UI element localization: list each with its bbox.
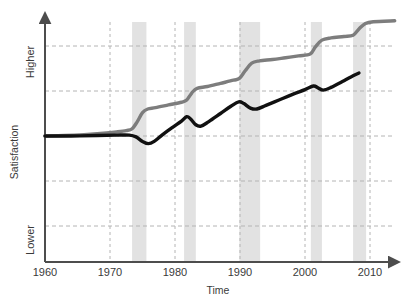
chart-plot-area: 1960 1970 1980 1990 2000 2010 Time Highe…	[0, 0, 412, 303]
x-tick-label-1980: 1980	[163, 266, 187, 278]
x-tick-label-1970: 1970	[98, 266, 122, 278]
series-lines-group	[45, 21, 395, 144]
x-tick-label-2010: 2010	[358, 266, 382, 278]
x-tick-label-2000: 2000	[293, 266, 317, 278]
x-axis-title: Time	[207, 284, 230, 296]
chart-container: 1960 1970 1980 1990 2000 2010 Time Highe…	[0, 0, 412, 303]
y-axis-title: Satisfaction	[8, 125, 20, 179]
x-tick-label-1990: 1990	[228, 266, 252, 278]
line-series_upper	[45, 21, 395, 136]
y-label-lower: Lower	[24, 225, 36, 255]
y-label-higher: Higher	[24, 45, 36, 78]
x-tick-label-1960: 1960	[33, 266, 57, 278]
